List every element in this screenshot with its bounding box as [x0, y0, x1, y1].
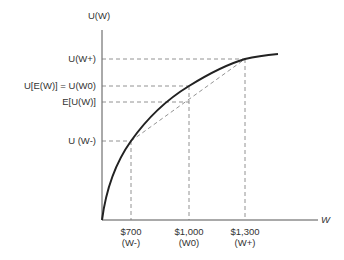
- y-label-u-wplus: U(W+): [68, 53, 96, 64]
- utility-diagram: [0, 0, 344, 260]
- x-label-1000: $1,000 (W0): [159, 226, 219, 248]
- x-label-700: $700 (W-): [101, 226, 161, 248]
- utility-curve: [102, 54, 278, 220]
- y-label-u-ew: U[E(W)] = U(W0): [24, 80, 96, 91]
- x-axis-title: W: [321, 214, 330, 225]
- y-label-u-wminus: U (W-): [68, 135, 96, 146]
- x-label-1300: $1,300 (W+): [215, 226, 275, 248]
- y-label-eu-w: E[U(W)]: [62, 96, 96, 107]
- expected-utility-chord: [131, 59, 245, 141]
- y-axis-title: U(W): [88, 10, 110, 21]
